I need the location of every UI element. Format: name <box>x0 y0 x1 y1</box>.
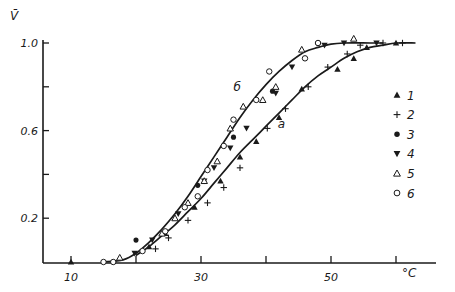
legend-item: 6 <box>394 187 415 201</box>
plus-marker <box>399 40 405 46</box>
series-4 <box>132 40 380 256</box>
triangle-down-filled-marker <box>273 91 279 97</box>
chart-svg: 0.20.61.0103050 бa 123456 V̄ °C <box>0 0 455 292</box>
plus-marker <box>185 217 191 223</box>
fitted-curves: бa <box>104 43 416 262</box>
series-1 <box>68 40 399 265</box>
plus-marker <box>325 64 331 70</box>
triangle-up-filled-marker <box>351 55 357 61</box>
circle-open-marker <box>231 117 236 122</box>
plus-marker <box>204 200 210 206</box>
circle-open-marker <box>267 69 272 74</box>
triangle-up-open-marker <box>214 158 220 164</box>
legend-item: 1 <box>394 89 415 103</box>
circle-filled-marker <box>394 131 399 136</box>
y-tick-label: 0.2 <box>21 212 39 225</box>
series-6 <box>101 40 321 264</box>
circle-open-marker <box>315 40 320 45</box>
legend-item: 4 <box>394 147 415 161</box>
legend: 123456 <box>394 89 415 201</box>
axes: 0.20.61.0103050 <box>21 37 437 284</box>
data-points <box>68 35 406 264</box>
x-tick-label: 10 <box>64 271 78 284</box>
circle-filled-marker <box>195 183 200 188</box>
plus-marker <box>221 184 227 190</box>
triangle-up-filled-marker <box>334 66 340 72</box>
triangle-up-open-marker <box>240 103 246 109</box>
plus-marker <box>237 165 243 171</box>
y-tick-label: 0.6 <box>21 125 39 138</box>
circle-open-marker <box>302 56 307 61</box>
circle-open-marker <box>163 229 168 234</box>
series-5 <box>117 35 357 260</box>
series-3 <box>133 40 320 242</box>
circle-open-marker <box>254 97 259 102</box>
circle-filled-marker <box>133 238 138 243</box>
circle-open-marker <box>205 167 210 172</box>
curve-б <box>104 43 384 262</box>
triangle-up-open-marker <box>351 35 357 41</box>
y-tick-label: 1.0 <box>21 37 39 50</box>
plus-marker <box>282 106 288 112</box>
circle-filled-marker <box>231 135 236 140</box>
legend-item: 3 <box>394 128 414 142</box>
circle-open-marker <box>182 205 187 210</box>
legend-label: 2 <box>407 108 415 122</box>
circle-open-marker <box>195 194 200 199</box>
legend-label: 4 <box>407 147 415 161</box>
legend-label: 6 <box>407 187 415 201</box>
triangle-up-open-marker <box>273 84 279 90</box>
triangle-down-filled-marker <box>394 151 401 157</box>
circle-open-marker <box>221 143 226 148</box>
circle-open-marker <box>140 248 145 253</box>
legend-label: 5 <box>407 167 415 181</box>
circle-open-marker <box>101 259 106 264</box>
triangle-up-filled-marker <box>394 92 401 98</box>
legend-label: 3 <box>407 128 415 142</box>
triangle-down-filled-marker <box>243 126 249 132</box>
x-tick-label: 50 <box>324 271 338 284</box>
y-axis-label: V̄ <box>10 9 19 23</box>
triangle-up-filled-marker <box>68 259 74 265</box>
curve-label: б <box>234 80 242 94</box>
plus-marker <box>394 111 401 118</box>
circle-open-marker <box>394 190 400 196</box>
x-axis-unit-label: °C <box>402 266 417 280</box>
circle-open-marker <box>111 259 116 264</box>
legend-label: 1 <box>407 89 415 103</box>
legend-item: 2 <box>394 108 415 122</box>
triangle-up-open-marker <box>299 46 305 52</box>
legend-item: 5 <box>394 167 415 181</box>
triangle-up-open-marker <box>394 170 401 176</box>
triangle-down-filled-marker <box>211 165 217 171</box>
chart-container: 0.20.61.0103050 бa 123456 V̄ °C <box>0 0 455 292</box>
triangle-down-filled-marker <box>289 65 295 71</box>
triangle-up-open-marker <box>117 254 123 260</box>
x-tick-label: 30 <box>194 271 208 284</box>
triangle-down-filled-marker <box>227 146 233 152</box>
plus-marker <box>152 246 158 252</box>
plus-marker <box>305 84 311 90</box>
triangle-up-open-marker <box>260 97 266 103</box>
